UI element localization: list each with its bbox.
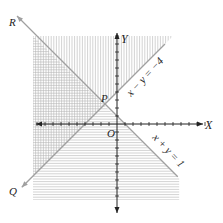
line-x-plus-y-eq-1 <box>17 16 178 177</box>
point-p-label: P <box>100 92 108 104</box>
inequality-graph: X Y O P R Q x − y = −4 x + y = 1 <box>0 0 223 223</box>
x-axis-label: X <box>204 118 213 132</box>
y-axis-label: Y <box>121 32 129 46</box>
point-q-label: Q <box>9 185 17 197</box>
x-axis-right-arrow-icon <box>197 122 203 127</box>
point-r-label: R <box>8 16 16 28</box>
y-axis-bottom-arrow-icon <box>115 207 120 213</box>
origin-label: O <box>107 127 115 139</box>
axis-ticks <box>37 36 205 196</box>
